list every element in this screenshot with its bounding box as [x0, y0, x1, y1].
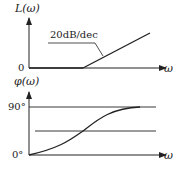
phase-tick-0: 0°	[12, 150, 23, 160]
annotation-leader	[95, 43, 103, 56]
magnitude-x-label: ω	[164, 63, 173, 74]
magnitude-plot	[29, 18, 166, 68]
magnitude-y-label: L(ω)	[15, 3, 40, 14]
phase-y-label: φ(ω)	[14, 76, 39, 87]
magnitude-origin-label: 0	[18, 63, 24, 73]
phase-tick-90: 90°	[8, 102, 26, 112]
phase-plot	[29, 92, 166, 155]
slope-annotation: 20dB/dec	[50, 30, 98, 40]
phase-x-label: ω	[164, 150, 173, 161]
